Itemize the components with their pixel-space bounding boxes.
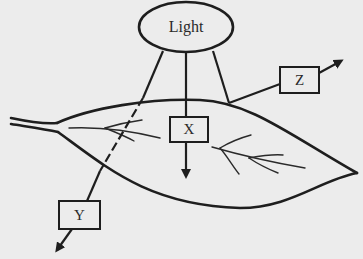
ray-y-below-leaf bbox=[87, 171, 100, 201]
leaf-shape bbox=[11, 100, 357, 208]
leaf-veins-left bbox=[69, 120, 160, 141]
leaf-veins-right bbox=[212, 135, 305, 174]
leaf-stem-lower bbox=[11, 124, 58, 132]
label-z: Z bbox=[280, 73, 319, 88]
label-x: X bbox=[170, 122, 208, 137]
leaf-stem-upper bbox=[11, 118, 57, 123]
ray-z-reflected bbox=[229, 84, 280, 103]
ray-y-incoming bbox=[143, 51, 163, 98]
ray-y-outgoing bbox=[57, 229, 72, 250]
ray-z-incoming bbox=[213, 51, 229, 103]
leaf-lower-edge bbox=[58, 132, 357, 208]
label-y: Y bbox=[59, 208, 100, 223]
light-label: Light bbox=[139, 19, 233, 35]
ray-z-outgoing bbox=[319, 61, 341, 73]
leaf-light-diagram: Light X Y Z bbox=[0, 0, 363, 259]
